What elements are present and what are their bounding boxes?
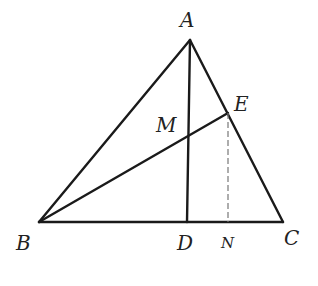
label-M: M (155, 113, 177, 137)
label-D: D (176, 231, 193, 255)
label-A: A (178, 8, 194, 32)
triangle-figure: A B C D E M N (0, 0, 318, 286)
segment-AC (190, 40, 283, 222)
label-B: B (15, 231, 31, 255)
segment-AD (187, 40, 190, 222)
label-C: C (284, 226, 299, 250)
label-E: E (233, 92, 249, 116)
segment-BE (39, 113, 228, 222)
point-labels: A B C D E M N (15, 8, 299, 255)
geometry-diagram: A B C D E M N (0, 0, 318, 286)
label-N: N (220, 234, 235, 252)
